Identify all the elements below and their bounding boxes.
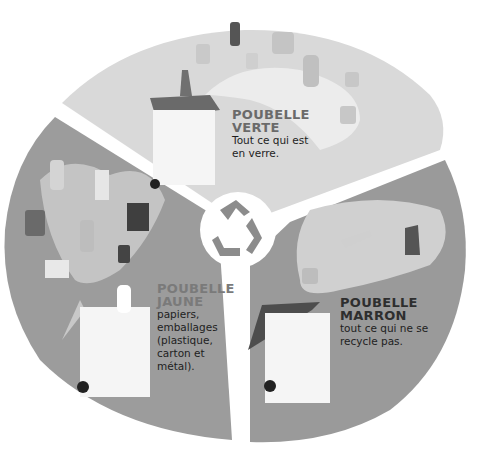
desc-verte-line2: en verre.: [232, 147, 310, 160]
desc-marron-line2: recycle pas.: [340, 335, 428, 348]
desc-marron-line1: tout ce qui ne se: [340, 322, 428, 335]
desc-jaune-line3: (plastique,: [157, 334, 235, 347]
desc-jaune-line2: emballages: [157, 321, 235, 334]
desc-verte-line1: Tout ce qui est: [232, 134, 310, 147]
recycle-icon: [200, 192, 276, 268]
label-marron: POUBELLE MARRON tout ce qui ne se recycl…: [340, 296, 428, 348]
label-verte: POUBELLE VERTE Tout ce qui est en verre.: [232, 108, 310, 160]
desc-jaune-line4: carton et: [157, 347, 235, 360]
label-jaune: POUBELLE JAUNE papiers, emballages (plas…: [157, 282, 235, 373]
title-verte-line2: VERTE: [232, 121, 310, 134]
title-jaune-line2: JAUNE: [157, 295, 235, 308]
title-marron-line2: MARRON: [340, 309, 428, 322]
recycling-infographic: POUBELLE VERTE Tout ce qui est en verre.…: [0, 0, 480, 455]
desc-jaune-line1: papiers,: [157, 308, 235, 321]
desc-jaune-line5: métal).: [157, 360, 235, 373]
